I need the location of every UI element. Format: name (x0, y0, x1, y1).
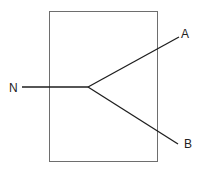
branch-line-a (88, 37, 179, 87)
label-a: A (181, 27, 189, 41)
diagram-canvas: N A B (0, 0, 201, 172)
branch-line-b (88, 87, 178, 144)
label-n: N (9, 81, 18, 95)
label-b: B (184, 137, 192, 151)
